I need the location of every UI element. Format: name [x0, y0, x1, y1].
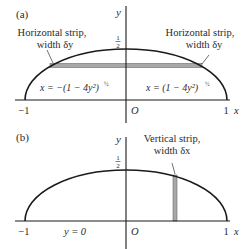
origin-label-a: O	[131, 105, 139, 116]
panel-a: (a) y 1 2 Horizontal strip, width δy Hor…	[15, 6, 239, 123]
panel-b: (b) y 1 2 Vertical strip, width δx −1 y …	[15, 131, 239, 249]
left-strip-label-line2: width δy	[37, 39, 74, 50]
y-axis-label-a: y	[115, 6, 121, 18]
right-curve-exponent: ½	[205, 81, 210, 87]
left-strip-label-line1: Horizontal strip,	[18, 27, 87, 38]
left-curve-exponent: ½	[104, 81, 109, 87]
right-curve-equation: x = (1 − 4y²)	[145, 82, 199, 94]
y-half-den-b: 2	[116, 162, 120, 170]
origin-label-b: O	[131, 226, 139, 237]
right-strip-label-line2: width δy	[186, 39, 223, 50]
vertical-strip	[173, 175, 177, 221]
x-min-label-a: −1	[18, 105, 29, 116]
right-strip-label-line1: Horizontal strip,	[166, 27, 235, 38]
x-max-label-a: 1	[223, 105, 228, 116]
x-max-label-b: 1	[223, 226, 228, 237]
y-half-den-a: 2	[116, 42, 120, 50]
ellipse-area-diagram: (a) y 1 2 Horizontal strip, width δy Hor…	[0, 0, 252, 249]
x-axis-label-a: x	[233, 105, 239, 116]
x-min-label-b: −1	[18, 226, 29, 237]
vertical-strip-label-line1: Vertical strip,	[144, 133, 201, 144]
panel-b-tag: (b)	[16, 131, 29, 144]
panel-a-tag: (a)	[16, 8, 29, 21]
right-strip-leader	[202, 55, 209, 64]
y-axis-label-b: y	[115, 133, 121, 145]
vertical-strip-leader	[172, 163, 175, 174]
vertical-strip-label-line2: width δx	[154, 145, 191, 156]
left-strip-leader	[47, 50, 53, 63]
x-axis-label-b: x	[233, 226, 239, 237]
left-curve-equation: x = −(1 − 4y²)	[39, 82, 99, 94]
base-equation: y = 0	[63, 226, 87, 237]
